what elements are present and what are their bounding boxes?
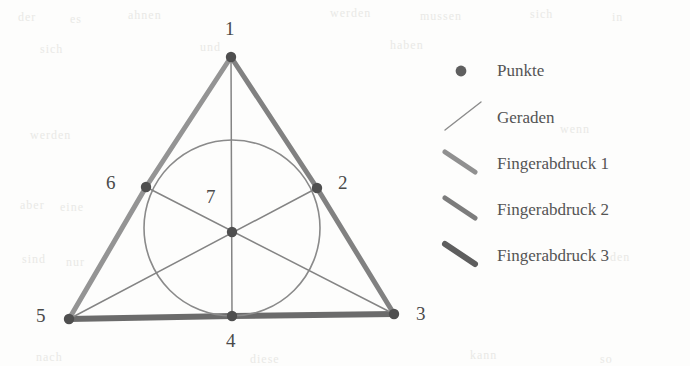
- legend-label-5: Fingerabdruck 3: [497, 246, 609, 266]
- dot-marker: [437, 50, 493, 90]
- cevian-1-4: [231, 57, 232, 316]
- legend-row-1: Punkte: [437, 50, 687, 96]
- thick-line-marker-2: [437, 188, 493, 228]
- point-label-1: 1: [225, 18, 235, 40]
- point-label-6: 6: [106, 172, 116, 194]
- point-label-2: 2: [338, 172, 348, 194]
- point-dot-4: [227, 311, 237, 321]
- legend-row-4: Fingerabdruck 2: [437, 188, 687, 234]
- point-label-3: 3: [416, 303, 426, 325]
- legend-row-5: Fingerabdruck 3: [437, 234, 687, 280]
- legend-label-2: Geraden: [497, 108, 555, 128]
- legend-label-1: Punkte: [497, 61, 544, 81]
- point-dot-3: [389, 309, 399, 319]
- point-label-5: 5: [36, 305, 46, 327]
- figure-page: deresahnenwerdenmussensichinsichundhaben…: [0, 0, 690, 366]
- legend-row-2: Geraden: [437, 96, 687, 142]
- point-label-4: 4: [226, 330, 236, 352]
- legend-label-4: Fingerabdruck 2: [497, 200, 609, 220]
- thick-line-marker-3: [437, 234, 493, 274]
- point-dot-7: [227, 227, 237, 237]
- point-dot-6: [141, 182, 151, 192]
- legend-row-3: Fingerabdruck 1: [437, 142, 687, 188]
- point-dot-2: [312, 183, 322, 193]
- point-dot-1: [226, 52, 236, 62]
- thin-line-marker: [437, 96, 493, 136]
- point-dot-5: [64, 314, 74, 324]
- legend-label-3: Fingerabdruck 1: [497, 154, 609, 174]
- point-label-7: 7: [206, 186, 216, 208]
- thick-line-marker-1: [437, 142, 493, 182]
- legend: PunkteGeradenFingerabdruck 1Fingerabdruc…: [437, 50, 687, 280]
